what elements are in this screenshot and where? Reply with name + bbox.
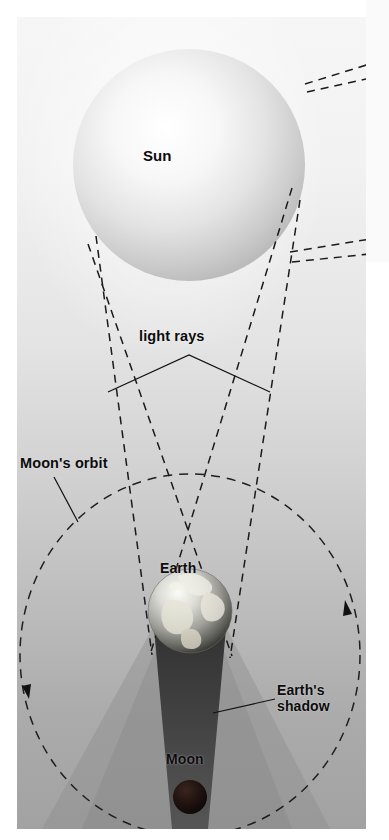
- label-light-rays: light rays: [139, 328, 204, 344]
- label-earths-shadow-line1: Earth's: [277, 682, 325, 698]
- left-margin: [0, 0, 17, 840]
- bottom-margin: [0, 829, 389, 840]
- diagram-vector-layer: [0, 0, 389, 840]
- label-sun: Sun: [143, 148, 172, 165]
- label-moon: Moon: [166, 752, 204, 768]
- label-earths-shadow: Earth's shadow: [277, 683, 330, 714]
- lunar-eclipse-diagram: Sun light rays Moon's orbit Earth Earth'…: [0, 0, 389, 840]
- right-margin-upper: [366, 0, 389, 262]
- sun-body: [73, 49, 305, 281]
- light-rays-leader: [108, 355, 270, 392]
- right-edge-notch: [366, 262, 389, 829]
- label-moons-orbit: Moon's orbit: [20, 455, 108, 471]
- moons-orbit-leader: [54, 477, 78, 522]
- label-earth: Earth: [160, 561, 196, 577]
- earth-body: [148, 569, 232, 653]
- orbit-arrow-right: [343, 600, 352, 616]
- top-margin: [0, 0, 389, 17]
- moon-body: [173, 780, 207, 814]
- label-earths-shadow-line2: shadow: [277, 698, 330, 714]
